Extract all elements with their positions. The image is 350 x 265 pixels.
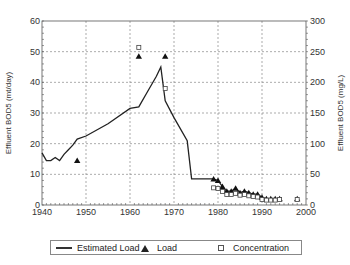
- grid-lines: [42, 21, 306, 205]
- line-swatch-icon: [56, 247, 72, 249]
- square-marker-icon: [238, 193, 242, 197]
- x-tick-label: 1980: [208, 207, 228, 217]
- legend-label: Load: [157, 243, 177, 253]
- y-tick-label: 0: [35, 200, 40, 210]
- triangle-marker-icon: [141, 245, 149, 252]
- y-right-tick-label: 100: [310, 139, 325, 149]
- y-right-tick-label: 250: [310, 47, 325, 57]
- chart-plot: 1940195019601970198019902000 01020304050…: [0, 0, 350, 235]
- square-marker-icon: [220, 190, 224, 194]
- y-axis-right: 050100150200250300: [306, 16, 325, 210]
- square-marker-icon: [218, 245, 224, 251]
- square-marker-icon: [264, 198, 268, 202]
- square-marker-icon: [273, 198, 277, 202]
- legend-item-estimated-load: Estimated Load: [56, 243, 140, 253]
- triangle-marker-icon: [162, 53, 168, 59]
- y-axis-right-label: Effluent BOD5 (mg/L): [336, 75, 345, 152]
- triangle-marker-icon: [232, 185, 238, 191]
- square-marker-icon: [216, 186, 220, 190]
- y-tick-label: 40: [30, 77, 40, 87]
- square-marker-icon: [260, 197, 264, 201]
- square-marker-icon: [225, 193, 229, 197]
- square-marker-icon: [256, 195, 260, 199]
- x-tick-label: 1970: [164, 207, 184, 217]
- y-tick-label: 50: [30, 47, 40, 57]
- y-right-tick-label: 200: [310, 77, 325, 87]
- legend-label: Concentration: [233, 243, 289, 253]
- square-marker-icon: [229, 193, 233, 197]
- legend-label: Estimated Load: [77, 243, 140, 253]
- y-axis-left-label: Effluent BOD5 (mt/day): [4, 71, 13, 154]
- y-right-tick-label: 50: [310, 169, 320, 179]
- x-tick-label: 1950: [76, 207, 96, 217]
- square-marker-icon: [212, 186, 216, 190]
- legend-item-load: Load: [141, 243, 177, 253]
- series-estimated-load: [42, 67, 280, 199]
- square-marker-icon: [247, 194, 251, 198]
- square-marker-icon: [234, 191, 238, 195]
- x-tick-label: 1990: [252, 207, 272, 217]
- square-marker-icon: [242, 193, 246, 197]
- square-marker-icon: [137, 45, 141, 49]
- square-marker-icon: [278, 197, 282, 201]
- triangle-marker-icon: [136, 53, 142, 59]
- y-tick-label: 10: [30, 169, 40, 179]
- x-tick-label: 1960: [120, 207, 140, 217]
- y-tick-label: 20: [30, 139, 40, 149]
- y-right-tick-label: 0: [310, 200, 315, 210]
- y-right-tick-label: 150: [310, 108, 325, 118]
- series-load: [74, 53, 300, 201]
- estimated-load-line: [42, 67, 280, 199]
- legend: Estimated Load Load Concentration: [50, 240, 302, 255]
- square-marker-icon: [163, 86, 167, 90]
- legend-item-concentration: Concentration: [218, 243, 289, 253]
- square-marker-icon: [295, 197, 299, 201]
- triangle-marker-icon: [74, 158, 80, 164]
- y-tick-label: 60: [30, 16, 40, 26]
- y-tick-label: 30: [30, 108, 40, 118]
- square-marker-icon: [251, 194, 255, 198]
- y-right-tick-label: 300: [310, 16, 325, 26]
- square-marker-icon: [269, 198, 273, 202]
